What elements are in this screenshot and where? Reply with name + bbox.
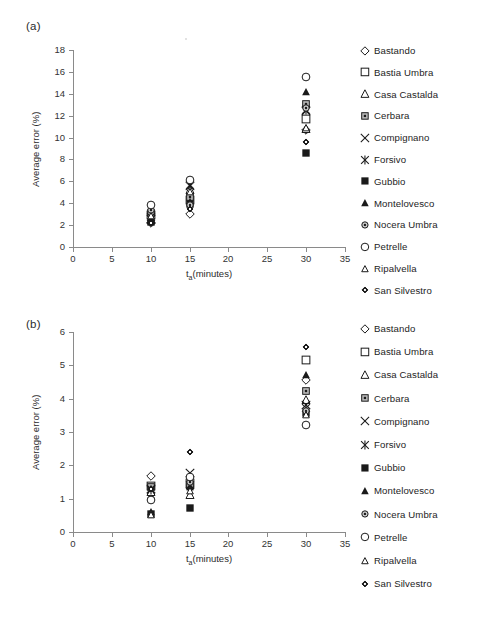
legend-item-forsivo[interactable]: Forsivo: [358, 438, 406, 451]
x-tick: [151, 248, 152, 252]
legend-item-compignano[interactable]: Compignano: [358, 415, 429, 428]
legend-item-montelovesco[interactable]: Montelovesco: [358, 484, 434, 497]
legend-item-gubbio[interactable]: Gubbio: [358, 461, 406, 474]
y-tick-label: 5: [39, 360, 65, 369]
x-tick: [306, 533, 307, 537]
x-tick: [190, 248, 191, 252]
y-tick: [69, 225, 73, 226]
square-open-icon: [358, 66, 371, 79]
legend-item-petrelle[interactable]: Petrelle: [358, 240, 407, 253]
x-cross-icon: [358, 131, 371, 144]
legend-label: Compignano: [374, 416, 429, 427]
y-axis-line: [73, 332, 74, 533]
circle-open-icon: [358, 240, 371, 253]
circle-open-icon: [358, 531, 371, 544]
y-tick-label: 12: [39, 111, 65, 120]
data-point: [146, 484, 156, 494]
legend-item-petrelle[interactable]: Petrelle: [358, 531, 407, 544]
x-tick-label: 10: [140, 254, 162, 263]
x-tick: [151, 533, 152, 537]
legend-item-nocera-umbra[interactable]: Nocera Umbra: [358, 218, 438, 231]
y-tick: [69, 399, 73, 400]
data-point: [301, 370, 311, 380]
data-point: [301, 410, 311, 420]
legend-item-casa-castalda[interactable]: Casa Castalda: [358, 368, 438, 381]
legend-item-nocera-umbra[interactable]: Nocera Umbra: [358, 508, 438, 521]
y-tick: [69, 116, 73, 117]
data-point: [185, 486, 195, 496]
legend-label: Bastia Umbra: [374, 67, 433, 78]
y-tick: [69, 138, 73, 139]
legend-item-bastando[interactable]: Bastando: [358, 322, 415, 335]
x-tick-label: 15: [179, 539, 201, 548]
legend-item-cerbara[interactable]: Cerbara: [358, 109, 409, 122]
x-tick: [267, 248, 268, 252]
triangle-open-icon: [358, 368, 371, 381]
data-point: [301, 420, 311, 430]
legend-item-gubbio[interactable]: Gubbio: [358, 175, 406, 188]
y-tick: [69, 365, 73, 366]
y-tick: [69, 94, 73, 95]
plot-area-a: 02468101214161805101520253035ta(minutes)…: [0, 0, 360, 300]
legend-label: Cerbara: [374, 393, 409, 404]
x-tick-label: 25: [256, 539, 278, 548]
legend-label: Nocera Umbra: [374, 219, 438, 230]
asterisk-icon: [358, 438, 371, 451]
x-tick-label: 25: [256, 254, 278, 263]
legend-item-bastia-umbra[interactable]: Bastia Umbra: [358, 66, 433, 79]
x-tick-label: 0: [62, 539, 84, 548]
data-point: [185, 503, 195, 513]
data-point: [185, 447, 195, 457]
x-tick-label: 20: [217, 539, 239, 548]
legend-item-compignano[interactable]: Compignano: [358, 131, 429, 144]
data-point: [301, 72, 311, 82]
figure-page: (a) 02468101214161805101520253035ta(minu…: [0, 0, 477, 622]
circle-dotted-icon: [358, 218, 371, 231]
legend-item-forsivo[interactable]: Forsivo: [358, 153, 406, 166]
legend-item-bastando[interactable]: Bastando: [358, 44, 415, 57]
data-point: [185, 472, 195, 482]
legend-item-cerbara[interactable]: Cerbara: [358, 392, 409, 405]
y-tick-label: 1: [39, 494, 65, 503]
data-point: [301, 137, 311, 147]
legend-item-casa-castalda[interactable]: Casa Castalda: [358, 88, 438, 101]
x-axis-title: ta(minutes): [169, 268, 249, 281]
x-axis-title: ta(minutes): [169, 553, 249, 566]
y-tick-label: 6: [39, 176, 65, 185]
data-point: [185, 204, 195, 214]
y-tick: [69, 432, 73, 433]
data-point: [301, 355, 311, 365]
y-tick: [69, 72, 73, 73]
legend-label: San Silvestro: [374, 285, 432, 296]
x-tick-label: 0: [62, 254, 84, 263]
x-tick-label: 5: [101, 254, 123, 263]
x-tick-label: 15: [179, 254, 201, 263]
y-axis-line: [73, 50, 74, 248]
data-point: [146, 495, 156, 505]
legend-item-ripalvella[interactable]: Ripalvella: [358, 262, 417, 275]
legend-label: Gubbio: [374, 176, 406, 187]
x-tick: [345, 533, 346, 537]
legend-label: Bastando: [374, 323, 415, 334]
x-cross-icon: [358, 415, 371, 428]
x-tick-label: 10: [140, 539, 162, 548]
legend-item-montelovesco[interactable]: Montelovesco: [358, 197, 434, 210]
data-point: [301, 342, 311, 352]
diamond-open-icon: [358, 44, 371, 57]
triangle-open-icon: [358, 88, 371, 101]
y-tick-label: 8: [39, 154, 65, 163]
y-tick: [69, 332, 73, 333]
legend-label: Casa Castalda: [374, 89, 438, 100]
data-point: [146, 200, 156, 210]
panel-b: (b) 012345605101520253035ta(minutes)Aver…: [0, 300, 477, 611]
legend-item-bastia-umbra[interactable]: Bastia Umbra: [358, 345, 433, 358]
legend-item-san-silvestro[interactable]: San Silvestro: [358, 577, 432, 590]
data-point: [146, 218, 156, 228]
data-point: [301, 87, 311, 97]
y-tick: [69, 50, 73, 51]
y-tick-label: 4: [39, 394, 65, 403]
y-tick-label: 3: [39, 427, 65, 436]
x-tick-label: 5: [101, 539, 123, 548]
legend-item-ripalvella[interactable]: Ripalvella: [358, 554, 417, 567]
legend-item-san-silvestro[interactable]: San Silvestro: [358, 284, 432, 297]
